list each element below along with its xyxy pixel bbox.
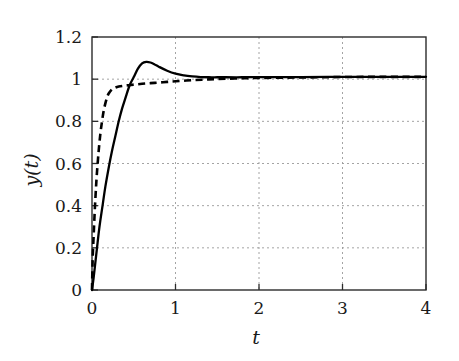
x-tick-label: 3 [337,298,348,318]
y-tick-label: 0.6 [55,154,82,174]
y-tick-label: 0.2 [55,238,82,258]
y-tick-label: 0.4 [55,196,82,216]
y-axis-tick-labels: 00.20.40.60.811.2 [55,27,82,300]
x-axis-tick-labels: 01234 [87,298,432,318]
figure-container: 00.20.40.60.811.2 01234 y(t) t [0,0,459,361]
x-tick-label: 2 [254,298,265,318]
y-tick-label: 1 [71,69,82,89]
x-axis-title: t [252,326,260,348]
y-axis-title: y(t) [20,153,42,187]
y-tick-label: 1.2 [55,27,82,47]
y-tick-label: 0.8 [55,111,82,131]
x-tick-label: 1 [170,298,181,318]
x-tick-label: 4 [421,298,432,318]
x-tick-label: 0 [87,298,98,318]
y-tick-label: 0 [71,280,82,300]
step-response-chart: 00.20.40.60.811.2 01234 y(t) t [0,0,459,361]
